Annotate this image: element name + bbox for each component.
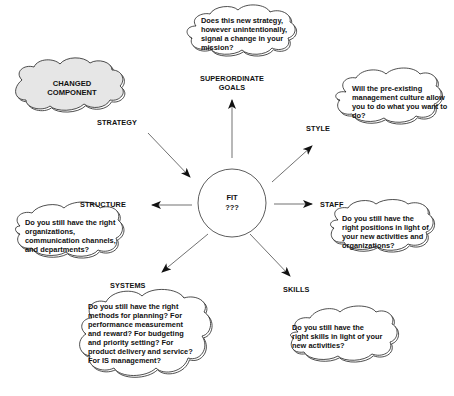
label-structure: STRUCTURE — [80, 200, 126, 209]
question-line: and priority setting? For — [88, 338, 193, 347]
question-line: new activities? — [292, 341, 382, 350]
question-line: organizations? — [342, 241, 429, 250]
systems-question: Do you still have the right methods for … — [88, 302, 193, 365]
question-line: Do you still have the — [292, 323, 382, 332]
label-strategy: STRATEGY — [97, 118, 137, 127]
question-line: Do you still have the right — [88, 302, 193, 311]
question-line: mission? — [201, 43, 287, 52]
changed-component-line-1: CHANGED — [40, 79, 104, 88]
question-line: however unintentionally, — [201, 25, 287, 34]
superordinate-goals-question: Does this new strategy, however unintent… — [201, 16, 287, 52]
fit-label: FIT ??? — [212, 193, 252, 213]
label-superordinate-line-2: GOALS — [200, 83, 264, 92]
structure-question: Do you still have the right organization… — [25, 218, 116, 254]
fit-line-2: ??? — [212, 203, 252, 213]
label-style: STYLE — [306, 124, 330, 133]
question-line: Will the pre-existing — [352, 84, 447, 93]
question-line: you to do what you want to — [352, 102, 447, 111]
question-line: right positions in light of — [342, 223, 429, 232]
question-line: and reward? For budgeting — [88, 329, 193, 338]
fit-line-1: FIT — [212, 193, 252, 203]
staff-question: Do you still have the right positions in… — [342, 214, 429, 250]
label-staff: STAFF — [320, 200, 343, 209]
question-line: For IS management? — [88, 356, 193, 365]
arrow-to-style — [272, 146, 312, 182]
question-line: right skills in light of your — [292, 332, 382, 341]
question-line: and departments? — [25, 245, 116, 254]
question-line: performance measurement — [88, 320, 193, 329]
arrow-to-systems — [162, 234, 208, 272]
question-line: methods for planning? For — [88, 311, 193, 320]
question-line: signal a change in your — [201, 34, 287, 43]
label-superordinate-line-1: SUPERORDINATE — [200, 74, 264, 83]
changed-component-line-2: COMPONENT — [40, 88, 104, 97]
style-question: Will the pre-existing management culture… — [352, 84, 447, 120]
question-line: product delivery and service? — [88, 347, 193, 356]
question-line: Do you still have the right — [25, 218, 116, 227]
skills-question: Do you still have the right skills in li… — [292, 323, 382, 350]
question-line: your new activities and — [342, 232, 429, 241]
label-superordinate-goals: SUPERORDINATE GOALS — [200, 74, 264, 92]
label-systems: SYSTEMS — [110, 281, 146, 290]
changed-component-text: CHANGED COMPONENT — [40, 79, 104, 97]
arrow-strategy-to-fit — [148, 133, 190, 177]
question-line: do? — [352, 111, 447, 120]
arrow-to-skills — [250, 234, 290, 276]
question-line: organizations, — [25, 227, 116, 236]
question-line: Do you still have the — [342, 214, 429, 223]
question-line: management culture allow — [352, 93, 447, 102]
question-line: communication channels, — [25, 236, 116, 245]
label-skills: SKILLS — [283, 285, 310, 294]
question-line: Does this new strategy, — [201, 16, 287, 25]
